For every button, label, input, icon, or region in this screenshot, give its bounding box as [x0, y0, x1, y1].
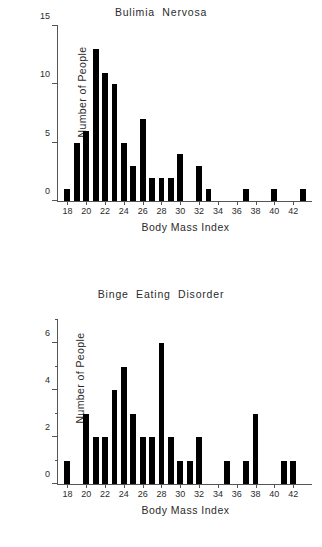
x-axis-tick-label: 36 — [232, 206, 242, 216]
x-axis-tick — [274, 201, 275, 205]
bar — [112, 390, 118, 484]
x-axis-tick-label: 32 — [194, 489, 204, 499]
y-axis-tick — [52, 142, 58, 143]
bar — [102, 437, 108, 484]
x-axis-tick — [293, 201, 294, 205]
x-axis-tick — [256, 484, 257, 488]
bar — [130, 166, 136, 201]
chart-bulimia-nervosa: Bulimia Nervosa Number of People Body Ma… — [0, 0, 322, 262]
bar — [281, 461, 287, 484]
x-axis-tick — [161, 484, 162, 488]
x-axis-tick-label: 24 — [119, 206, 129, 216]
bar — [187, 461, 193, 484]
x-axis-tick — [218, 484, 219, 488]
y-axis-tick — [52, 436, 58, 437]
x-axis-tick-label: 22 — [100, 489, 110, 499]
y-axis-tick-label: 0 — [45, 469, 50, 479]
bar — [64, 189, 70, 201]
x-axis-tick-label: 40 — [269, 489, 279, 499]
bar — [243, 461, 249, 484]
x-axis-tick-label: 32 — [194, 206, 204, 216]
plot-area-binge: Number of People Body Mass Index 0246182… — [57, 320, 312, 485]
bar — [196, 437, 202, 484]
x-axis-tick — [143, 484, 144, 488]
bar — [168, 437, 174, 484]
y-axis-tick-label: 10 — [40, 69, 50, 79]
bar — [149, 178, 155, 201]
x-axis-tick — [256, 201, 257, 205]
y-axis-minor-tick — [55, 366, 59, 367]
x-axis-tick-label: 18 — [62, 206, 72, 216]
x-axis-tick — [161, 201, 162, 205]
bar — [93, 437, 99, 484]
chart-title-binge: Binge Eating Disorder — [0, 288, 322, 300]
y-axis-minor-tick — [55, 319, 59, 320]
x-axis-tick — [180, 201, 181, 205]
bar — [93, 49, 99, 201]
y-axis-tick — [52, 25, 58, 26]
x-axis-tick-label: 36 — [232, 489, 242, 499]
y-axis-minor-tick — [55, 413, 59, 414]
bar — [130, 414, 136, 484]
y-axis-tick — [52, 389, 58, 390]
x-axis-tick-label: 22 — [100, 206, 110, 216]
x-axis-tick-label: 26 — [138, 489, 148, 499]
x-axis-tick — [105, 484, 106, 488]
x-axis-tick-label: 30 — [175, 489, 185, 499]
bar — [83, 131, 89, 201]
y-axis-tick-label: 15 — [40, 11, 50, 21]
bar — [121, 367, 127, 484]
y-axis-tick-label: 6 — [45, 328, 50, 338]
bar — [177, 461, 183, 484]
x-axis-tick — [180, 484, 181, 488]
y-axis-tick-label: 4 — [45, 375, 50, 385]
x-axis-tick-label: 34 — [213, 206, 223, 216]
x-axis-tick-label: 42 — [288, 206, 298, 216]
x-axis-tick — [124, 484, 125, 488]
x-axis-tick — [124, 201, 125, 205]
x-axis-tick-label: 38 — [251, 206, 261, 216]
y-axis-tick — [52, 342, 58, 343]
y-axis-tick-label: 0 — [45, 186, 50, 196]
x-axis-tick-label: 28 — [156, 489, 166, 499]
bar — [177, 154, 183, 201]
bar — [140, 119, 146, 201]
x-axis-tick — [237, 484, 238, 488]
x-axis-tick — [143, 201, 144, 205]
bar — [206, 189, 212, 201]
x-axis-tick — [237, 201, 238, 205]
bar — [149, 437, 155, 484]
x-axis-tick-label: 20 — [81, 489, 91, 499]
bar — [121, 143, 127, 201]
x-axis-tick — [218, 201, 219, 205]
y-axis-tick — [52, 200, 58, 201]
bar — [290, 461, 296, 484]
bar — [159, 178, 165, 201]
x-axis-tick-label: 34 — [213, 489, 223, 499]
bar — [83, 414, 89, 484]
bar — [64, 461, 70, 484]
x-axis-title-binge: Body Mass Index — [58, 504, 313, 516]
bar — [140, 437, 146, 484]
bar — [168, 178, 174, 201]
x-axis-tick-label: 26 — [138, 206, 148, 216]
x-axis-tick — [86, 484, 87, 488]
x-axis-tick — [199, 201, 200, 205]
bar — [112, 84, 118, 201]
bar-series-bulimia — [58, 26, 312, 201]
x-axis-tick — [67, 201, 68, 205]
x-axis-tick-label: 40 — [269, 206, 279, 216]
page-caption — [0, 535, 322, 547]
x-axis-tick — [86, 201, 87, 205]
x-axis-tick-label: 18 — [62, 489, 72, 499]
y-axis-tick — [52, 483, 58, 484]
x-axis-tick-label: 24 — [119, 489, 129, 499]
x-axis-tick — [199, 484, 200, 488]
bar-series-binge — [58, 320, 312, 484]
bar — [243, 189, 249, 201]
x-axis-tick-label: 20 — [81, 206, 91, 216]
x-axis-tick-label: 38 — [251, 489, 261, 499]
plot-area-bulimia: Number of People Body Mass Index 0510151… — [57, 26, 312, 202]
bar — [271, 189, 277, 201]
x-axis-tick — [105, 201, 106, 205]
